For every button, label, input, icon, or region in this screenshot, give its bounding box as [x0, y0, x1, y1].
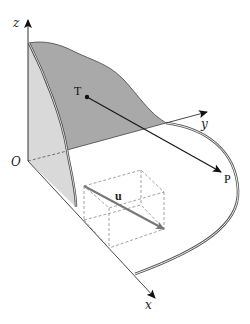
x-axis-label: x — [145, 298, 152, 312]
dashed-box — [84, 170, 164, 248]
point-T-dot — [85, 95, 89, 99]
coordinate-diagram: z y x O T P u — [0, 0, 250, 324]
origin-label: O — [11, 155, 21, 169]
point-T-label: T — [74, 84, 82, 98]
vector-u — [84, 186, 164, 229]
y-axis-label: y — [200, 117, 208, 131]
figure-canvas: z y x O T P u — [0, 0, 250, 324]
point-P-label: P — [224, 172, 231, 186]
x-axis — [28, 161, 155, 298]
vector-u-label: u — [115, 189, 122, 203]
floor-boundary-curve — [135, 123, 238, 274]
z-axis-label: z — [12, 16, 20, 30]
